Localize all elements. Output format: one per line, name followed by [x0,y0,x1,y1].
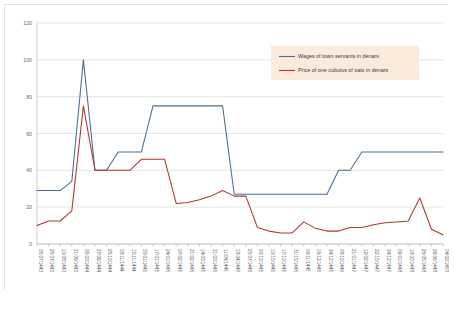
x-axis-tick-label: 25/07/1445 [247,249,252,272]
x-axis-tick-label: 18/04/1445 [235,249,240,272]
x-axis-tick-label: 25/10/1444 [107,249,112,272]
x-axis-tick-label: 21/02/1445 [189,249,194,272]
x-axis-tick-label: 07/02/1445 [177,249,182,272]
y-axis-tick-label: 120 [23,20,32,26]
x-axis-tick-label: 11/04/1445 [223,249,228,272]
x-axis-tick-label: 03/10/1445 [258,249,263,272]
x-axis-tick-label: 27/09/1444 [96,249,101,272]
x-axis-tick-label: 09/01/1448 [397,249,402,272]
legend-background [271,46,419,80]
x-axis-tick-label: 19/12/1445 [316,249,321,272]
x-axis-tick-label: 09/11/1445 [305,249,310,272]
chart-legend: Wages of town servants in denarsPrice of… [271,46,419,80]
x-axis-tick-label: 24/01/1445 [165,249,170,272]
x-axis-tick-label: 10/10/1445 [270,249,275,272]
x-axis-tick-label: 17/10/1445 [281,249,286,272]
x-axis-tick-label: 08/11/1444 [119,249,124,272]
x-axis-tick-label: 05/07/1443 [38,249,43,272]
x-axis-tick-label: 30/01/1445 [142,249,147,272]
x-axis-tick-label: 29/06/1448 [432,249,437,272]
x-axis-tick-label: 05/03/1444 [84,249,89,272]
x-axis-tick-label: 15/11/1444 [131,249,136,272]
x-axis-tick-label: 08/10/1446 [339,249,344,272]
x-axis-tick-label: 22/10/1447 [374,249,379,272]
legend-label-2: Price of one cubulus of oats in denars [298,67,389,73]
x-axis-tick-label: 25/07/1443 [49,249,54,272]
x-axis-tick-label: 04/02/1453 [444,249,449,272]
x-axis-tick-label: 21/03/1445 [212,249,217,272]
x-axis-tick-label: 17/01/1445 [154,249,159,272]
x-axis-tick-label: 21/01/1447 [351,249,356,272]
x-axis-tick-label: 24/12/1447 [386,249,391,272]
chart-frame: 020406080100120 05/07/144325/07/144310/0… [4,4,448,290]
y-axis-tick-label: 0 [29,241,32,247]
x-axis-tick-label: 26/05/1448 [421,249,426,272]
x-axis-tick-label: 10/08/1443 [61,249,66,272]
x-axis-tick-label: 31/10/1445 [293,249,298,272]
x-axis-tick-label: 21/09/1443 [73,249,78,272]
x-axis-tick-label: 14/03/1445 [200,249,205,272]
y-axis-tick-label: 80 [26,94,32,100]
y-axis-tick-label: 20 [26,204,32,210]
line-chart: 020406080100120 05/07/144325/07/144310/0… [5,5,449,291]
y-axis-tick-label: 40 [26,167,32,173]
y-axis-tick-label: 60 [26,131,32,137]
x-axis-tick-label: 24/12/1445 [328,249,333,272]
x-axis-tick-label: 12/02/1447 [363,249,368,272]
legend-label-1: Wages of town servants in denars [298,53,379,59]
x-axis-tick-label: 18/03/1448 [409,249,414,272]
y-axis-tick-label: 100 [23,57,32,63]
